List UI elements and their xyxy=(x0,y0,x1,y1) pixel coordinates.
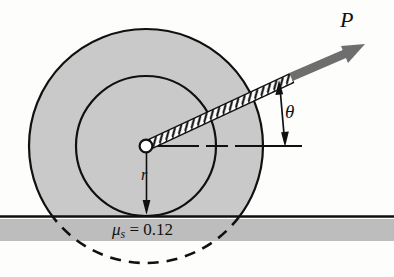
force-arrowhead xyxy=(341,44,365,63)
physics-diagram-figure: P θ r μs = 0.12 xyxy=(0,0,394,277)
ground-band xyxy=(0,219,394,241)
force-arrow-shaft xyxy=(291,52,349,77)
friction-coefficient-label: μs = 0.12 xyxy=(112,220,173,242)
force-label-P: P xyxy=(340,7,353,33)
hub-axle xyxy=(140,140,153,153)
mu-value: 0.12 xyxy=(143,220,173,239)
diagram-canvas xyxy=(0,0,394,277)
mu-symbol: μ xyxy=(112,220,121,239)
mu-equals: = xyxy=(125,220,143,239)
radius-label-r: r xyxy=(141,166,147,184)
theta-arrowhead-bottom xyxy=(281,132,289,147)
angle-label-theta: θ xyxy=(285,101,294,123)
